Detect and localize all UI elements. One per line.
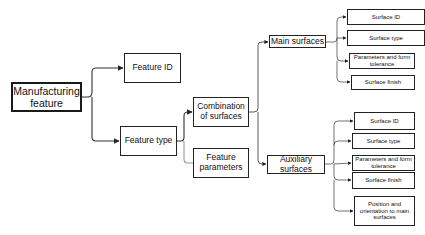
aux-surface-id-node: Surface ID [354,112,415,130]
node-label: Main surfaces [271,37,324,47]
node-label: Auxiliary surfaces [268,155,324,175]
feature-id-node: Feature ID [124,53,181,83]
node-label: Feature ID [132,63,172,73]
node-label: Surface ID [372,14,400,21]
node-label: Parameters and form tolerance [353,156,414,170]
node-label: Feature type [125,136,173,146]
node-label: Manufacturing feature [13,85,80,109]
node-label: Parameters and form tolerance [350,54,414,68]
main-surface-type-node: Surface type [347,30,425,46]
main-surfaces-node: Main surfaces [269,35,326,48]
feature-parameters-node: Feature parameters [193,148,249,178]
combination-of-surfaces-node: Combination of surfaces [193,97,249,127]
aux-position-orientation-node: Position and orientation to main surface… [354,196,415,226]
aux-surface-type-node: Surface type [352,133,415,149]
node-label: Position and orientation to main surface… [355,201,414,222]
auxiliary-surfaces-node: Auxiliary surfaces [267,155,325,174]
manufacturing-feature-node: Manufacturing feature [11,82,82,112]
main-surface-finish-node: Surface finish [351,75,415,90]
node-label: Surface type [367,138,401,145]
feature-type-node: Feature type [120,126,177,156]
node-label: Surface type [369,35,403,42]
node-label: Surface finish [365,177,401,184]
main-parameters-form-tolerance-node: Parameters and form tolerance [349,53,415,69]
node-label: Surface ID [370,118,398,125]
node-label: Feature parameters [194,153,248,173]
aux-surface-finish-node: Surface finish [352,172,415,189]
node-label: Combination of surfaces [194,102,248,122]
main-surface-id-node: Surface ID [347,9,425,25]
node-label: Surface finish [365,79,401,86]
aux-parameters-form-tolerance-node: Parameters and form tolerance [352,155,415,171]
